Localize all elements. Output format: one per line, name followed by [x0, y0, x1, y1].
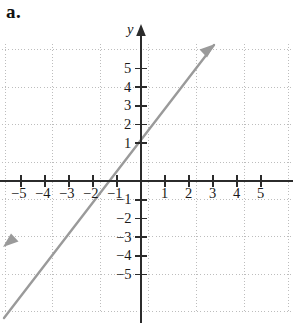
coordinate-plane [0, 0, 293, 323]
line-arrow-upper [200, 44, 216, 58]
line-arrow-lower [3, 234, 19, 248]
y-tick-label--2: −2 [116, 211, 131, 226]
x-tick-label-1: 1 [161, 186, 168, 201]
y-tick-label-2: 2 [124, 117, 131, 132]
y-tick-label-3: 3 [124, 98, 131, 113]
x-tick-label-4: 4 [233, 186, 240, 201]
x-tick-label--4: −4 [35, 186, 50, 201]
x-tick-label-3: 3 [209, 186, 216, 201]
x-tick-label-5: 5 [257, 186, 264, 201]
y-tick-label-1: 1 [124, 136, 131, 151]
x-tick-label-2: 2 [185, 186, 192, 201]
y-axis-label: y [127, 22, 133, 37]
y-tick-label--4: −4 [116, 248, 131, 263]
figure-container: a. [0, 0, 293, 323]
y-tick-label--5: −5 [116, 267, 131, 282]
x-tick-label--5: −5 [11, 186, 26, 201]
graph-svg [0, 0, 293, 323]
y-axis-arrow [136, 24, 146, 36]
y-tick-label--3: −3 [116, 230, 131, 245]
x-tick-label--3: −3 [59, 186, 74, 201]
y-tick-label-5: 5 [124, 61, 131, 76]
x-tick-label--2: −2 [83, 186, 98, 201]
y-tick-label--1: −1 [116, 192, 131, 207]
y-tick-label-4: 4 [124, 80, 131, 95]
